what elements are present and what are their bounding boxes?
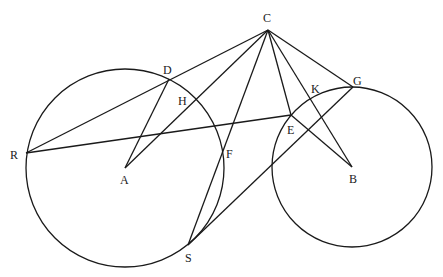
- segment-c-s: [188, 30, 268, 245]
- label-h: H: [178, 94, 187, 108]
- label-b: B: [349, 172, 357, 186]
- label-k: K: [311, 82, 320, 96]
- segment-r-e: [26, 115, 291, 153]
- segment-d-a: [125, 79, 169, 168]
- segment-e-b: [291, 115, 352, 167]
- segment-g-s: [188, 87, 353, 245]
- label-a: A: [120, 173, 129, 187]
- label-c: C: [263, 11, 271, 25]
- label-g: G: [353, 74, 362, 88]
- label-r: R: [10, 148, 18, 162]
- segment-c-a: [125, 30, 268, 168]
- label-f: F: [226, 147, 233, 161]
- geometry-diagram: C D H K G E R F A B S: [0, 0, 443, 277]
- label-e: E: [287, 123, 294, 137]
- label-s: S: [185, 251, 192, 265]
- label-d: D: [163, 63, 172, 77]
- segment-c-b: [268, 30, 352, 167]
